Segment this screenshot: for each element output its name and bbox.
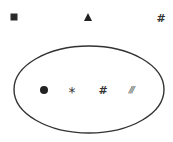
triple-slash-icon: /// (129, 86, 134, 95)
set-ellipse (0, 0, 173, 142)
square-icon (11, 14, 18, 21)
dot-icon (40, 86, 48, 94)
hash-icon-outside: # (156, 13, 165, 24)
triangle-icon (84, 13, 92, 21)
diagram-canvas: # * # /// (0, 0, 173, 142)
hash-icon-inside: # (98, 85, 107, 96)
ellipse-outline (14, 46, 164, 133)
asterisk-icon: * (69, 85, 76, 99)
